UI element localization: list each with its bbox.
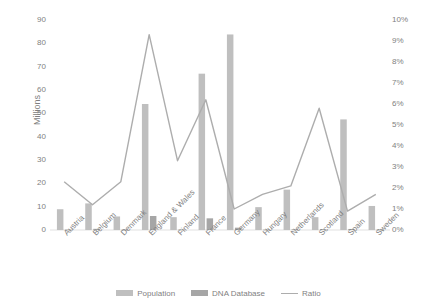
- legend-swatch-line-icon: [281, 293, 298, 294]
- legend-item[interactable]: DNA Database: [191, 289, 265, 298]
- y-axis-left-tick: 20: [22, 179, 46, 187]
- bar-population: [369, 206, 376, 230]
- y-axis-right-tick: 7%: [392, 79, 420, 87]
- legend-item[interactable]: Population: [116, 289, 175, 298]
- legend-swatch-bar-icon: [191, 290, 208, 296]
- y-axis-right-tick: 9%: [392, 37, 420, 45]
- y-axis-right: 0%1%2%3%4%5%6%7%8%9%10%: [392, 0, 420, 305]
- chart-legend: PopulationDNA DatabaseRatio: [0, 285, 437, 301]
- y-axis-left-tick: 90: [22, 16, 46, 24]
- y-axis-right-tick: 8%: [392, 58, 420, 66]
- y-axis-left: 0102030405060708090: [22, 0, 46, 305]
- y-axis-left-tick: 60: [22, 86, 46, 94]
- chart-container: Millions 0102030405060708090 0%1%2%3%4%5…: [0, 0, 437, 305]
- y-axis-right-tick: 0%: [392, 226, 420, 234]
- bar-population: [57, 209, 63, 230]
- legend-item-label: Population: [137, 289, 175, 298]
- y-axis-right-tick: 10%: [392, 16, 420, 24]
- bar-population: [284, 190, 291, 230]
- y-axis-left-tick: 80: [22, 39, 46, 47]
- y-axis-right-tick: 4%: [392, 142, 420, 150]
- legend-item-label: Ratio: [302, 289, 321, 298]
- y-axis-left-tick: 10: [22, 203, 46, 211]
- bar-population: [199, 74, 206, 230]
- y-axis-right-tick: 5%: [392, 121, 420, 129]
- line-ratio: [64, 35, 376, 211]
- legend-swatch-bar-icon: [116, 290, 133, 296]
- y-axis-left-tick: 40: [22, 133, 46, 141]
- y-axis-left-tick: 0: [22, 226, 46, 234]
- y-axis-right-tick: 3%: [392, 163, 420, 171]
- x-axis-labels: AustriaBelgiumDenmarkEngland & WalesFinl…: [50, 231, 390, 291]
- y-axis-left-tick: 50: [22, 109, 46, 117]
- bar-population: [85, 203, 92, 230]
- y-axis-right-tick: 6%: [392, 100, 420, 108]
- legend-item[interactable]: Ratio: [281, 289, 321, 298]
- legend-item-label: DNA Database: [212, 289, 265, 298]
- plot-area: [50, 20, 390, 230]
- y-axis-left-tick: 30: [22, 156, 46, 164]
- y-axis-right-tick: 2%: [392, 184, 420, 192]
- plot-svg: [50, 20, 390, 230]
- y-axis-left-tick: 70: [22, 63, 46, 71]
